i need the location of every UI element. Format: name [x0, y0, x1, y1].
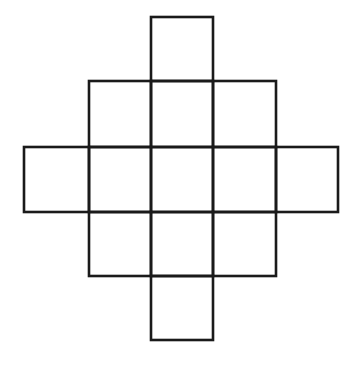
grid-square-r3-c3: [213, 212, 276, 276]
grid-square-r2-c3: [213, 147, 276, 212]
grid-square-r2-c2: [151, 147, 213, 212]
grid-square-r1-c2: [151, 81, 213, 147]
grid-cells: [24, 17, 338, 340]
grid-square-r3-c1: [89, 212, 151, 276]
grid-square-r2-c4: [276, 147, 338, 212]
square-grid-diagram: [0, 0, 354, 370]
grid-square-r2-c1: [89, 147, 151, 212]
grid-square-r3-c2: [151, 212, 213, 276]
grid-square-r2-c0: [24, 147, 89, 212]
grid-square-r0-c2: [151, 17, 213, 81]
grid-square-r4-c2: [151, 276, 213, 340]
grid-square-r1-c1: [89, 81, 151, 147]
grid-square-r1-c3: [213, 81, 276, 147]
